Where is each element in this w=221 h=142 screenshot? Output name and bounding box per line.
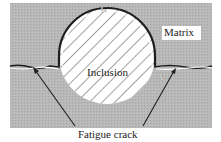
- caption-fatigue-crack: Fatigue crack: [78, 128, 138, 140]
- label-matrix: Matrix: [164, 26, 194, 38]
- label-point-c: C: [101, 4, 107, 14]
- label-point-a: A: [157, 72, 164, 82]
- label-inclusion: Inclusion: [87, 66, 128, 78]
